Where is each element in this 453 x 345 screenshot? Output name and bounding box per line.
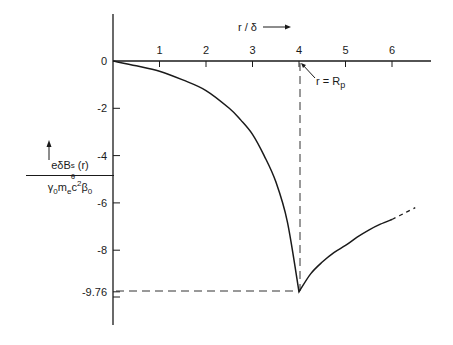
- y-tick-label: -8: [97, 244, 107, 256]
- x-ticks: 123456: [156, 44, 395, 67]
- x-tick-label: 1: [156, 44, 162, 56]
- x-tick-label: 6: [389, 44, 395, 56]
- x-axis-label: r / δ: [238, 21, 257, 33]
- x-tick-label: 3: [249, 44, 255, 56]
- x-tick-label: 2: [203, 44, 209, 56]
- rp-annotation-arrow-icon: [301, 63, 315, 78]
- y-tick-label: -9.76: [82, 286, 107, 298]
- curve-dashed-extension: [392, 208, 415, 220]
- y-tick-label: -2: [97, 102, 107, 114]
- curve-solid: [113, 61, 392, 292]
- x-tick-label: 5: [342, 44, 348, 56]
- x-arrow-icon: [263, 25, 291, 30]
- x-tick-label: 4: [296, 44, 302, 56]
- y-label-numerator: eδBsθ(r): [26, 160, 114, 176]
- y-axis-label: eδBsθ(r) γ0mec2β0: [20, 160, 120, 196]
- y-tick-label: -6: [97, 197, 107, 209]
- y-tick-label: 0: [101, 55, 107, 67]
- y-arrow-icon: [47, 140, 52, 160]
- rp-annotation: r = Rp: [316, 75, 345, 90]
